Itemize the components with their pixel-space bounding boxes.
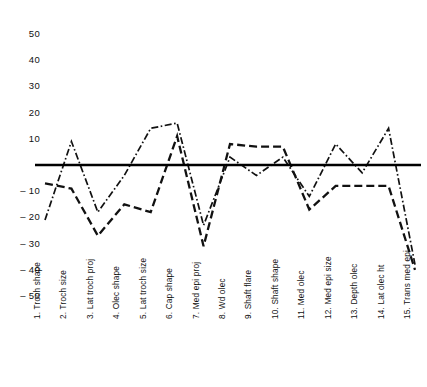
x-tick-label-2: 2. Troch size xyxy=(59,270,68,319)
x-tick-label-13: 13. Depth olec xyxy=(350,263,359,319)
x-tick-label-12: 12. Med epi size xyxy=(324,256,333,319)
x-tick-label-7: 7. Med epi proj xyxy=(192,262,201,319)
x-tick-label-9: 9. Shaft flare xyxy=(244,270,253,319)
y-tick-label: 50 xyxy=(0,28,40,39)
x-tick-label-4: 4. Olec shape xyxy=(112,266,121,319)
x-tick-label-10: 10. Shaft shape xyxy=(271,259,280,319)
x-tick-label-14: 14. Lat olec ht xyxy=(377,265,386,319)
x-tick-label-5: 5. Lat troch size xyxy=(139,258,148,319)
y-tick-label: 20 xyxy=(0,107,40,118)
series-group xyxy=(45,123,415,270)
line-chart-plot xyxy=(0,0,427,387)
y-tick-label: – 20 xyxy=(0,211,40,222)
x-tick-label-6: 6. Cap shape xyxy=(165,268,174,319)
x-tick-label-15: 15. Trans med epi xyxy=(403,250,412,319)
x-tick-label-11: 11. Med olec xyxy=(297,270,306,319)
y-tick-label: 40 xyxy=(0,54,40,65)
x-tick-label-8: 8. Wd olec xyxy=(218,278,227,319)
y-tick-label: – 10 xyxy=(0,185,40,196)
y-tick-label: 30 xyxy=(0,80,40,91)
x-tick-label-1: 1. Troch shape xyxy=(33,262,42,319)
chart-container: 5040302010– 10– 20– 30– 40– 50 1. Troch … xyxy=(0,0,427,387)
y-tick-label: – 30 xyxy=(0,238,40,249)
x-tick-label-3: 3. Lat troch proj xyxy=(86,259,95,319)
y-tick-label: 10 xyxy=(0,133,40,144)
